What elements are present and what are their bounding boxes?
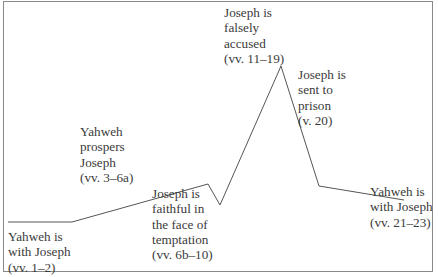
- label-line: Yahweh is: [370, 184, 433, 199]
- label-line: faithful in: [152, 201, 213, 216]
- label-joseph-accused: Joseph is falsely accused (vv. 11–19): [224, 5, 284, 66]
- label-line: with Joseph: [370, 199, 433, 214]
- label-yahweh-prospers: Yahweh prospers Joseph (vv. 3–6a): [80, 124, 133, 185]
- label-yahweh-with-joseph-1: Yahweh is with Joseph (vv. 1–2): [8, 229, 71, 275]
- label-line: (vv. 6b–10): [152, 247, 213, 262]
- label-line: Joseph is: [224, 5, 284, 20]
- label-line: prison: [298, 98, 346, 113]
- label-line: the face of: [152, 217, 213, 232]
- label-yahweh-with-joseph-2: Yahweh is with Joseph (vv. 21–23): [370, 184, 433, 230]
- label-line: accused: [224, 36, 284, 51]
- label-line: sent to: [298, 82, 346, 97]
- label-line: with Joseph: [8, 244, 71, 259]
- label-line: (vv. 21–23): [370, 215, 433, 230]
- label-line: (vv. 3–6a): [80, 170, 133, 185]
- label-line: temptation: [152, 232, 213, 247]
- label-line: Yahweh: [80, 124, 133, 139]
- label-line: falsely: [224, 20, 284, 35]
- label-line: prospers: [80, 139, 133, 154]
- label-joseph-faithful: Joseph is faithful in the face of tempta…: [152, 186, 213, 262]
- label-joseph-prison: Joseph is sent to prison (v. 20): [298, 67, 346, 128]
- label-line: (vv. 1–2): [8, 260, 71, 275]
- label-line: (v. 20): [298, 113, 346, 128]
- label-line: Joseph is: [152, 186, 213, 201]
- label-line: Yahweh is: [8, 229, 71, 244]
- label-line: Joseph is: [298, 67, 346, 82]
- label-line: (vv. 11–19): [224, 51, 284, 66]
- label-line: Joseph: [80, 155, 133, 170]
